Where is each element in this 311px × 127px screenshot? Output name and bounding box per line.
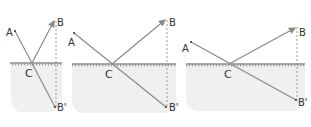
point-a	[190, 41, 192, 43]
panel-1: A B C B'	[6, 17, 67, 113]
label-b-prime: B'	[57, 102, 67, 113]
label-b: B	[57, 17, 64, 28]
label-c: C	[105, 68, 113, 81]
label-b: B	[299, 27, 306, 38]
reflection-diagram: A B C B' A B C B' A B C B'	[0, 0, 311, 127]
point-b-prime	[54, 106, 56, 108]
label-a: A	[68, 37, 75, 48]
label-c: C	[25, 67, 33, 80]
label-a: A	[182, 43, 189, 54]
reflected-ray	[32, 21, 54, 63]
point-b-prime	[295, 99, 297, 101]
label-b-prime: B'	[298, 97, 308, 108]
point-a	[14, 30, 16, 32]
label-c: C	[224, 68, 232, 81]
panel-2: A B C B'	[68, 17, 179, 113]
point-b-prime	[165, 106, 167, 108]
water-region	[72, 65, 176, 113]
label-b: B	[169, 17, 176, 28]
point-a	[73, 32, 75, 34]
surface-hatch	[72, 65, 176, 67]
reflected-ray	[229, 28, 295, 64]
reflected-ray	[112, 20, 165, 64]
panel-3: A B C B'	[182, 27, 308, 111]
label-a: A	[6, 27, 13, 38]
label-b-prime: B'	[169, 102, 179, 113]
surface-hatch	[10, 64, 62, 66]
surface-hatch	[186, 65, 305, 67]
